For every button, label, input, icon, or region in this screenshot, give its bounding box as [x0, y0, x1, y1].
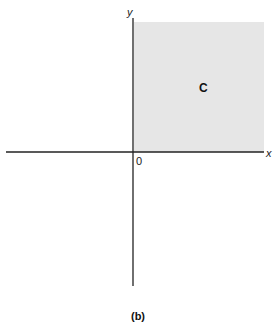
x-axis-label: x [265, 147, 272, 159]
figure-caption: (b) [0, 310, 276, 322]
origin-label: 0 [136, 155, 142, 167]
quadrant-diagram: y x 0 C [0, 0, 276, 326]
region-label: C [199, 81, 208, 95]
y-axis-label: y [126, 6, 134, 18]
